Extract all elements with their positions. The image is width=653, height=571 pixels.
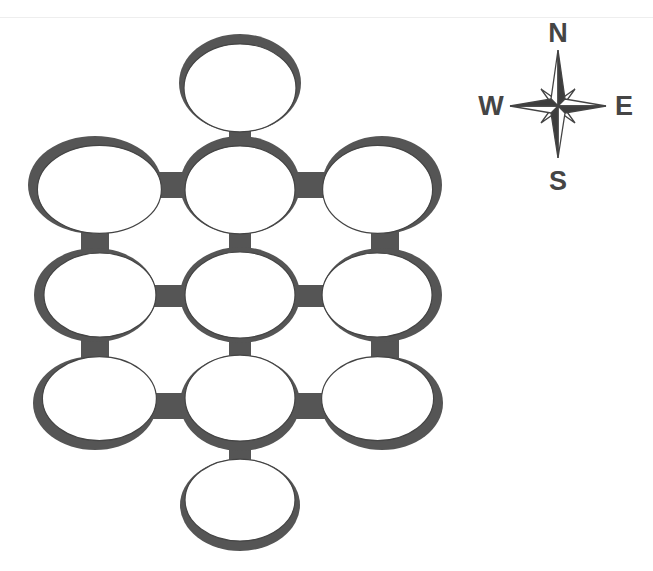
room-se xyxy=(321,356,443,450)
rooms xyxy=(28,34,443,551)
room-s xyxy=(180,355,300,451)
room-ne xyxy=(322,136,442,234)
room-north xyxy=(179,34,301,132)
compass-north-label: N xyxy=(548,18,568,48)
room-w xyxy=(34,248,156,342)
room-nw xyxy=(28,136,162,234)
compass-south-label: S xyxy=(549,166,567,196)
dungeon-map: N S E W xyxy=(0,0,653,571)
compass-west-label: W xyxy=(478,91,504,121)
room-e xyxy=(322,248,442,342)
room-grid-diagram: N S E W xyxy=(0,0,653,571)
room-n xyxy=(180,136,300,234)
room-center xyxy=(180,247,300,343)
compass-rose-icon: N S E W xyxy=(478,18,633,196)
compass-east-label: E xyxy=(615,91,633,121)
room-south xyxy=(180,459,300,551)
room-sw xyxy=(33,356,157,450)
